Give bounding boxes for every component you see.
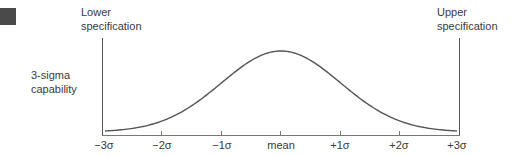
tick-label-plus-3-sigma: +3σ [447,139,466,151]
tick-label-minus-3-sigma: −3σ [94,139,113,151]
bell-curve [105,51,457,131]
tick-label-minus-1-sigma: −1σ [212,139,231,151]
tick-label-mean: mean [267,139,295,151]
tick-label-plus-1-sigma: +1σ [330,139,349,151]
normal-distribution-diagram [0,0,521,155]
x-axis-ticks [162,131,400,135]
tick-label-plus-2-sigma: +2σ [389,139,408,151]
tick-label-minus-2-sigma: −2σ [152,139,171,151]
